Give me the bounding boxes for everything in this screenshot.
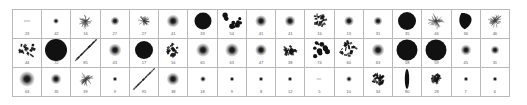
solid-disc-icon — [393, 10, 421, 32]
gauss-blob-icon — [452, 68, 480, 90]
thumbnail-label: 95 — [130, 88, 158, 96]
crystal-clump-icon — [335, 39, 363, 61]
gauss-blob-icon — [247, 68, 275, 90]
thumbnail-label: 60 — [335, 59, 363, 67]
gauss-blob-icon — [101, 39, 129, 61]
scribble-icon — [130, 10, 158, 32]
solid-disc-icon — [188, 10, 216, 32]
thumbnail-cell[interactable]: 5 — [305, 68, 334, 97]
thumbnail-cell[interactable]: 80 — [393, 68, 422, 97]
thumbnail-cell[interactable]: 36 — [452, 10, 481, 39]
thumbnail-label: 41 — [247, 30, 275, 38]
thumbnail-cell[interactable]: 47 — [247, 39, 276, 68]
gauss-blob-icon — [481, 39, 509, 61]
thumbnail-cell[interactable]: 38 — [159, 68, 188, 97]
faint-dash-icon — [13, 10, 41, 32]
thumbnail-label: 12 — [276, 88, 304, 96]
crystal-clump-icon — [13, 39, 41, 61]
thumbnail-cell[interactable]: 17 — [130, 39, 159, 68]
thumbnail-cell[interactable]: 35 — [42, 68, 71, 97]
scribble-icon — [481, 10, 509, 32]
thumbnail-label: 8 — [247, 88, 275, 96]
thumbnail-cell[interactable]: 45 — [452, 39, 481, 68]
thumbnail-cell[interactable]: 46 — [481, 10, 510, 39]
thumbnail-label: 9 — [218, 88, 246, 96]
thumbnail-cell[interactable]: 74 — [305, 39, 334, 68]
diagonal-streak-icon — [71, 39, 99, 61]
thumbnail-grid: 2342162727413354414116133135463646447285… — [12, 9, 510, 97]
thumbnail-label: 27 — [101, 30, 129, 38]
thumbnail-label: 42 — [42, 30, 70, 38]
thumbnail-cell[interactable]: 65 — [188, 39, 217, 68]
thumbnail-cell[interactable]: 16 — [305, 10, 334, 39]
thumbnail-cell[interactable]: 28 — [422, 68, 451, 97]
thumbnail-cell[interactable]: 34 — [364, 68, 393, 97]
thumbnail-cell[interactable]: 31 — [481, 39, 510, 68]
teardrop-icon — [452, 10, 480, 32]
gauss-blob-icon — [159, 68, 187, 90]
thumbnail-cell[interactable]: 63 — [13, 68, 42, 97]
scribble-icon — [422, 10, 450, 32]
thumbnail-cell[interactable]: 38 — [276, 39, 305, 68]
thumbnail-cell[interactable]: 8 — [247, 68, 276, 97]
thumbnail-cell[interactable]: 12 — [276, 68, 305, 97]
thumbnail-cell[interactable]: 46 — [422, 10, 451, 39]
crystal-clump-icon — [364, 68, 392, 90]
thumbnail-cell[interactable]: 60 — [335, 39, 364, 68]
dot-cluster-icon — [218, 10, 246, 32]
thumbnail-label: 85 — [71, 59, 99, 67]
thumbnail-cell[interactable]: 85 — [71, 39, 100, 68]
thumbnail-cell[interactable]: 95 — [130, 68, 159, 97]
gauss-blob-icon — [276, 68, 304, 90]
thumbnail-label: 80 — [393, 88, 421, 96]
thumbnail-label: 63 — [13, 88, 41, 96]
thumbnail-label: 16 — [305, 30, 333, 38]
thumbnail-cell[interactable]: 39 — [71, 68, 100, 97]
thumbnail-label: 16 — [159, 59, 187, 67]
thumbnail-cell[interactable]: 41 — [159, 10, 188, 39]
thumbnail-label: 54 — [218, 30, 246, 38]
thumbnail-cell[interactable]: 42 — [42, 10, 71, 39]
thumbnail-cell[interactable]: 59 — [422, 39, 451, 68]
thumbnail-cell[interactable]: 9 — [218, 68, 247, 97]
thumbnail-cell[interactable]: 27 — [130, 10, 159, 39]
faint-dash-icon — [305, 68, 333, 90]
thumbnail-label: 6 — [481, 88, 509, 96]
thumbnail-label: 45 — [452, 59, 480, 67]
thumbnail-cell[interactable]: 54 — [218, 10, 247, 39]
contact-sheet: 2342162727413354414116133135463646447285… — [0, 0, 527, 105]
ellipse-vert-icon — [393, 68, 421, 90]
thumbnail-cell[interactable]: 43 — [101, 39, 130, 68]
thumbnail-cell[interactable]: 41 — [247, 10, 276, 39]
thumbnail-label: 38 — [159, 88, 187, 96]
thumbnail-cell[interactable]: 72 — [42, 39, 71, 68]
thumbnail-cell[interactable]: 16 — [71, 10, 100, 39]
thumbnail-cell[interactable]: 16 — [159, 39, 188, 68]
thumbnail-cell[interactable]: 58 — [393, 39, 422, 68]
thumbnail-cell[interactable]: 33 — [188, 10, 217, 39]
thumbnail-label: 65 — [188, 59, 216, 67]
thumbnail-cell[interactable]: 44 — [13, 39, 42, 68]
thumbnail-cell[interactable]: 35 — [393, 10, 422, 39]
thumbnail-label: 38 — [276, 59, 304, 67]
thumbnail-cell[interactable]: 23 — [13, 10, 42, 39]
thumbnail-cell[interactable]: 63 — [218, 39, 247, 68]
thumbnail-cell[interactable]: 41 — [276, 10, 305, 39]
thumbnail-cell[interactable]: 7 — [452, 68, 481, 97]
thumbnail-label: 72 — [42, 59, 70, 67]
thumbnail-cell[interactable]: 63 — [364, 39, 393, 68]
thumbnail-cell[interactable]: 13 — [335, 10, 364, 39]
gauss-blob-icon — [188, 39, 216, 61]
scribble-icon — [71, 10, 99, 32]
thumbnail-cell[interactable]: 9 — [101, 68, 130, 97]
thumbnail-label: 46 — [422, 30, 450, 38]
gauss-blob-icon — [218, 68, 246, 90]
thumbnail-cell[interactable]: 10 — [335, 68, 364, 97]
crystal-clump-icon — [422, 68, 450, 90]
thumbnail-cell[interactable]: 6 — [481, 68, 510, 97]
thumbnail-cell[interactable]: 27 — [101, 10, 130, 39]
thumbnail-cell[interactable]: 31 — [364, 10, 393, 39]
thumbnail-label: 58 — [393, 59, 421, 67]
gauss-blob-icon — [481, 68, 509, 90]
thumbnail-cell[interactable]: 18 — [188, 68, 217, 97]
